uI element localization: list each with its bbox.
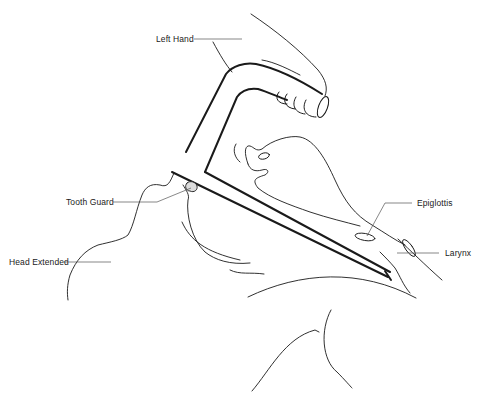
label-tooth-guard: Tooth Guard bbox=[66, 198, 114, 207]
tongue-illustration bbox=[234, 137, 405, 245]
handle-grip bbox=[277, 92, 331, 119]
label-larynx: Larynx bbox=[445, 249, 471, 258]
neck-illustration bbox=[230, 270, 416, 391]
label-head-extended: Head Extended bbox=[9, 258, 69, 267]
label-left-hand: Left Hand bbox=[156, 35, 194, 44]
diagram-drawing bbox=[0, 0, 479, 414]
tooth-guard-illustration bbox=[186, 182, 198, 192]
leader-tooth-guard-diag bbox=[157, 188, 191, 202]
laryngoscope-blade bbox=[172, 172, 391, 280]
laryngoscope-handle bbox=[186, 63, 322, 172]
face-profile bbox=[67, 173, 250, 300]
intubation-diagram: Left Hand Tooth Guard Head Extended Epig… bbox=[0, 0, 479, 414]
label-epiglottis: Epiglottis bbox=[417, 199, 453, 208]
hand-illustration bbox=[213, 14, 326, 96]
larynx-illustration bbox=[380, 238, 442, 293]
leader-epiglottis bbox=[367, 203, 412, 236]
